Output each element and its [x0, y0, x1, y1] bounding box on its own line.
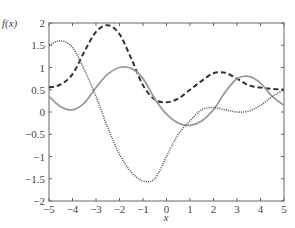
line-chart: −5−4−3−2−1012345 −2−1.5−1−0.500.511.52 f…: [0, 0, 295, 228]
x-tick-label: −2: [114, 203, 126, 215]
series-dotted-line: [49, 41, 284, 182]
x-tick-label: 2: [211, 203, 217, 215]
y-tick-label: 1: [40, 62, 46, 74]
y-tick-label: 2: [40, 17, 46, 29]
y-tick-label: 1.5: [31, 39, 45, 51]
series-dashed-line: [49, 25, 284, 102]
plot-frame: [49, 23, 284, 201]
x-axis-label: x: [163, 211, 169, 223]
series-solid-line: [49, 67, 284, 126]
x-axis-ticks: −5−4−3−2−1012345: [43, 23, 287, 215]
y-tick-label: −1: [33, 151, 45, 163]
x-tick-label: 1: [187, 203, 193, 215]
y-tick-label: −0.5: [25, 128, 45, 140]
y-tick-label: −2: [33, 195, 45, 207]
x-tick-label: −1: [137, 203, 149, 215]
y-tick-label: 0.5: [31, 84, 45, 96]
x-tick-label: 4: [258, 203, 264, 215]
x-tick-label: 3: [234, 203, 240, 215]
x-tick-label: −3: [90, 203, 102, 215]
x-tick-label: −4: [67, 203, 79, 215]
y-tick-label: 0: [40, 106, 46, 118]
x-tick-label: 5: [281, 203, 287, 215]
y-tick-label: −1.5: [25, 173, 45, 185]
series-lines: [49, 25, 284, 182]
y-axis-label: f(x): [2, 17, 18, 30]
